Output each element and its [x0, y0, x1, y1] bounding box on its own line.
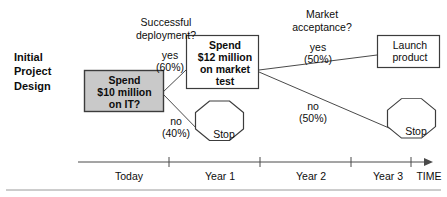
page-title: Initial Project Design — [14, 50, 80, 93]
node-label-stop-second: Stop — [396, 126, 436, 138]
branch-label-deploy-no: no (40%) — [152, 115, 200, 140]
branch-label-accept-yes: yes (50%) — [294, 41, 342, 66]
node-label-stop-first: Stop — [204, 129, 244, 141]
timeline-axis — [78, 157, 424, 167]
decision-tree-diagram: Initial Project Design Spend $10 million… — [0, 0, 447, 197]
branch-label-deploy-yes: yes (60%) — [146, 49, 194, 74]
node-label-launch-product: Launch product — [381, 40, 439, 64]
timeline-label-today: Today — [84, 170, 174, 182]
question-label-deployment: Successful deployment? — [120, 16, 212, 41]
node-label-invest-it: Spend $10 million on IT? — [87, 75, 162, 111]
timeline-arrowhead-icon — [424, 158, 433, 166]
timeline-label-year-3: Year 3 — [357, 170, 419, 182]
timeline-label-year-2: Year 2 — [266, 170, 356, 182]
node-label-market-test: Spend $12 million on market test — [190, 40, 260, 88]
timeline-axis-label: TIME — [412, 170, 446, 182]
decision-tree-canvas — [0, 0, 447, 197]
branch-label-accept-no: no (50%) — [289, 100, 337, 125]
question-label-acceptance: Market acceptance? — [276, 8, 368, 33]
timeline-label-year-1: Year 1 — [175, 170, 265, 182]
